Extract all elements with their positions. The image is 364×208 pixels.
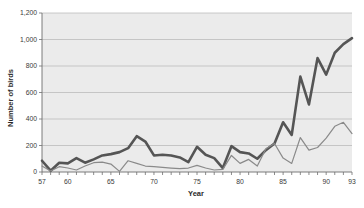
x-tick-label: 57 bbox=[38, 178, 46, 185]
y-tick-label: 0 bbox=[33, 168, 37, 175]
x-tick-label: 90 bbox=[322, 178, 330, 185]
x-tick-label: 85 bbox=[279, 178, 287, 185]
bird-population-chart: 02004006008001,0001,200 5760657075808590… bbox=[0, 0, 364, 208]
x-tick-label: 70 bbox=[150, 178, 158, 185]
x-tick-label: 80 bbox=[236, 178, 244, 185]
x-tick-label: 75 bbox=[193, 178, 201, 185]
y-tick-label: 1,000 bbox=[20, 36, 37, 43]
x-tick-label: 65 bbox=[107, 178, 115, 185]
chart-canvas: 02004006008001,0001,200 5760657075808590… bbox=[0, 0, 364, 208]
y-tick-label: 1,200 bbox=[20, 9, 37, 16]
y-tick-label: 600 bbox=[26, 89, 38, 96]
y-axis-title: Number of birds bbox=[6, 69, 15, 127]
x-axis-title: Year bbox=[188, 189, 204, 198]
x-tick-label: 60 bbox=[64, 178, 72, 185]
y-tick-label: 400 bbox=[26, 115, 38, 122]
y-tick-label: 800 bbox=[26, 62, 38, 69]
x-tick-label: 93 bbox=[348, 178, 356, 185]
y-tick-label: 200 bbox=[26, 142, 38, 149]
